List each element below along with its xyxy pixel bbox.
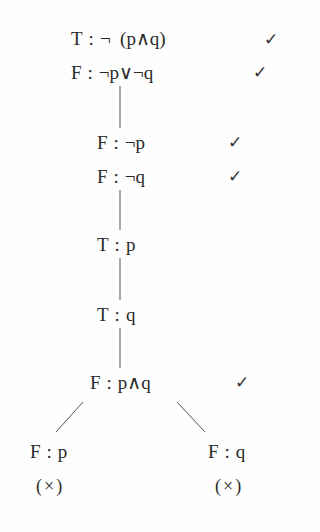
check-icon: ✓ bbox=[253, 62, 267, 82]
tableau-node-4: F:¬q bbox=[97, 166, 145, 188]
branch-right-node: F:q bbox=[208, 441, 245, 463]
separator: : bbox=[47, 441, 52, 463]
sign: T bbox=[71, 28, 83, 50]
check-icon: ✓ bbox=[228, 132, 242, 152]
sign: F bbox=[30, 441, 41, 463]
branch-left-node: F:p bbox=[30, 441, 67, 463]
tableau-node-5: T:p bbox=[97, 234, 135, 256]
sign: T bbox=[97, 304, 109, 326]
tableau-node-7: F:p∧q bbox=[90, 372, 151, 394]
separator: : bbox=[88, 62, 93, 84]
separator: : bbox=[115, 304, 120, 326]
formula: ¬p bbox=[125, 132, 145, 154]
formula: ¬q bbox=[125, 166, 145, 188]
check-icon: ✓ bbox=[228, 166, 242, 186]
formula: p bbox=[58, 441, 68, 463]
sign: F bbox=[71, 62, 82, 84]
separator: : bbox=[114, 166, 119, 188]
tableau-node-3: F:¬p bbox=[97, 132, 145, 154]
tableau-node-6: T:q bbox=[97, 304, 135, 326]
sign: T bbox=[97, 234, 109, 256]
formula: q bbox=[126, 304, 136, 326]
formula: q bbox=[236, 441, 246, 463]
formula: p∧q bbox=[118, 372, 151, 394]
sign: F bbox=[90, 372, 101, 394]
formula: p bbox=[126, 234, 136, 256]
tableau-node-2: F:¬p∨¬q bbox=[71, 62, 153, 84]
separator: : bbox=[107, 372, 112, 394]
check-icon: ✓ bbox=[264, 29, 278, 49]
tableau-node-1: T:¬ (p∧q) bbox=[71, 28, 166, 50]
sign: F bbox=[97, 132, 108, 154]
formula: ¬p∨¬q bbox=[99, 62, 153, 84]
check-icon: ✓ bbox=[235, 372, 249, 392]
sign: F bbox=[97, 166, 108, 188]
separator: : bbox=[225, 441, 230, 463]
formula: ¬ (p∧q) bbox=[100, 28, 166, 50]
separator: : bbox=[89, 28, 94, 50]
separator: : bbox=[115, 234, 120, 256]
separator: : bbox=[114, 132, 119, 154]
sign: F bbox=[208, 441, 219, 463]
closed-branch-mark: (×) bbox=[36, 475, 64, 497]
closed-branch-mark: (×) bbox=[215, 475, 243, 497]
